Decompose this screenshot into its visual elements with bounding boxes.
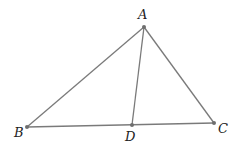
point-a bbox=[142, 25, 146, 29]
segment-ad bbox=[132, 27, 144, 125]
label-a: A bbox=[137, 7, 147, 22]
segment-bc bbox=[27, 123, 214, 127]
label-b: B bbox=[13, 125, 24, 140]
triangle-diagram: A B C D bbox=[0, 0, 240, 149]
label-c: C bbox=[218, 121, 228, 136]
label-d: D bbox=[124, 129, 136, 144]
point-c bbox=[212, 121, 216, 125]
point-d bbox=[130, 123, 134, 127]
segment-ac bbox=[144, 27, 214, 123]
segment-ab bbox=[27, 27, 144, 127]
point-b bbox=[25, 125, 29, 129]
